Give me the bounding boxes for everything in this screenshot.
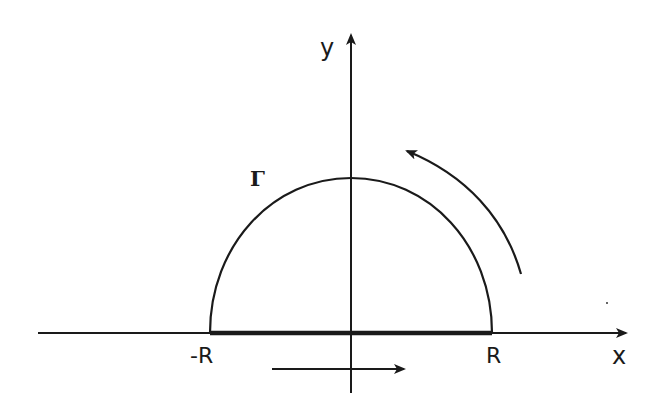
right-endpoint-label: R — [486, 345, 501, 367]
stray-dot — [606, 302, 608, 304]
contour-label-gamma: Γ — [250, 168, 265, 189]
contour-diagram: y x Γ -R R — [0, 0, 659, 407]
x-axis-label: x — [612, 344, 626, 368]
direction-arrow-arc — [407, 151, 521, 274]
y-axis-label: y — [320, 36, 334, 60]
left-endpoint-label: -R — [190, 345, 213, 367]
